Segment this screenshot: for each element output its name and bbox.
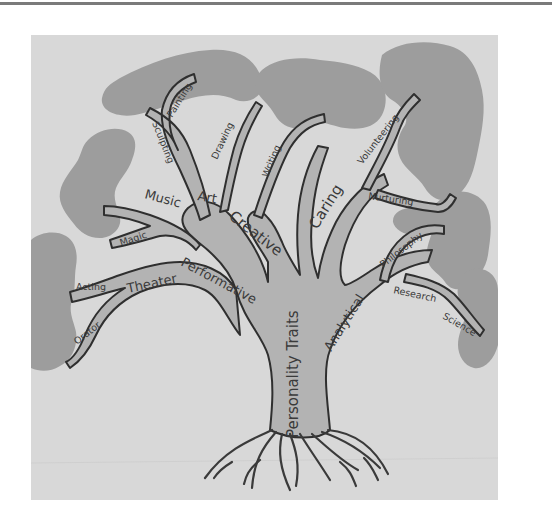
label-personality-traits: Personality Traits: [284, 310, 302, 438]
canopy-left-lower: [31, 233, 77, 371]
label-music: Music: [143, 186, 183, 210]
label-magic: Magic: [118, 229, 148, 248]
tree-diagram-panel: Personality Traits Performative Theater …: [31, 35, 498, 500]
label-acting: Acting: [76, 281, 106, 292]
roots: [205, 430, 388, 490]
canopy-left-upper: [60, 129, 136, 238]
label-nurturing: Nurturing: [368, 190, 414, 207]
trait-tree-svg: Personality Traits Performative Theater …: [31, 35, 498, 500]
top-rule: [0, 2, 552, 5]
ground-line: [31, 458, 498, 463]
